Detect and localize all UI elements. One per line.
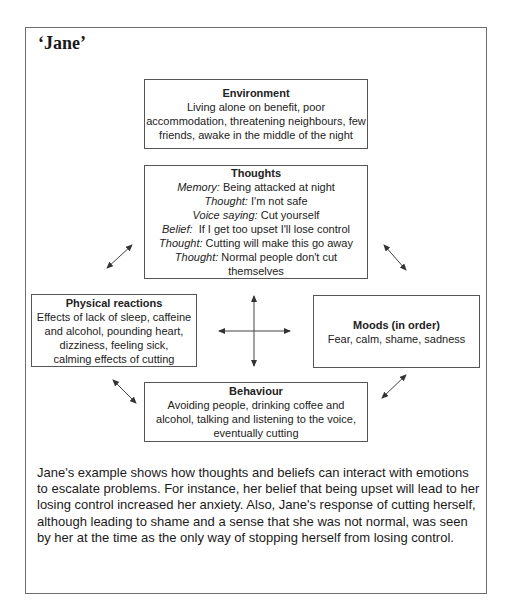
environment-heading: Environment xyxy=(145,86,367,100)
physical-line: calming effects of cutting xyxy=(32,352,196,366)
moods-box: Moods (in order) Fear, calm, shame, sadn… xyxy=(313,295,480,368)
thought-item-text: Normal people don't cut xyxy=(218,251,337,263)
thoughts-heading: Thoughts xyxy=(145,166,367,180)
thought-item: Memory: Being attacked at night xyxy=(145,180,367,194)
behaviour-heading: Behaviour xyxy=(145,384,367,398)
thought-item-text: If I get too upset I'll lose control xyxy=(193,223,350,235)
thought-item: Belief: If I get too upset I'll lose con… xyxy=(145,222,367,236)
thought-item-text: Being attacked at night xyxy=(220,181,335,193)
thought-item-text: Cut yourself xyxy=(258,209,320,221)
physical-line: dizziness, feeling sick, xyxy=(32,338,196,352)
thought-item-text: I'm not safe xyxy=(248,195,308,207)
thought-item: themselves xyxy=(145,264,367,278)
thought-item: Thought: Normal people don't cut xyxy=(145,250,367,264)
physical-heading: Physical reactions xyxy=(32,296,196,310)
case-title: ‘Jane’ xyxy=(38,33,86,54)
behaviour-box: Behaviour Avoiding people, drinking coff… xyxy=(144,382,368,442)
environment-box: Environment Living alone on benefit, poo… xyxy=(144,79,368,149)
thought-item-label: Thought: xyxy=(205,195,248,207)
thought-item-label: Memory: xyxy=(177,181,220,193)
thought-item: Thought: Cutting will make this go away xyxy=(145,236,367,250)
thought-item-label: Thought: xyxy=(175,251,218,263)
thought-item-label: Thought: xyxy=(159,237,202,249)
physical-line: Effects of lack of sleep, caffeine xyxy=(32,310,196,324)
moods-heading: Moods (in order) xyxy=(314,318,479,332)
moods-line: Fear, calm, shame, sadness xyxy=(314,332,479,346)
thought-item: Voice saying: Cut yourself xyxy=(145,208,367,222)
behaviour-line: eventually cutting xyxy=(145,426,367,440)
thoughts-box: Thoughts Memory: Being attacked at night… xyxy=(144,165,368,279)
environment-line: Living alone on benefit, poor xyxy=(145,100,367,114)
explanation-paragraph: Jane's example shows how thoughts and be… xyxy=(37,465,482,546)
thought-item-text: Cutting will make this go away xyxy=(203,237,353,249)
thought-item-label: Voice saying: xyxy=(193,209,258,221)
physical-reactions-box: Physical reactions Effects of lack of sl… xyxy=(31,294,197,367)
environment-line: friends, awake in the middle of the nigh… xyxy=(145,128,367,142)
thought-item-text: themselves xyxy=(228,265,284,277)
behaviour-line: Avoiding people, drinking coffee and xyxy=(145,398,367,412)
thought-item: Thought: I'm not safe xyxy=(145,194,367,208)
thought-item-label: Belief: xyxy=(162,223,193,235)
environment-line: accommodation, threatening neighbours, f… xyxy=(145,114,367,128)
behaviour-line: alcohol, talking and listening to the vo… xyxy=(145,412,367,426)
physical-line: and alcohol, pounding heart, xyxy=(32,324,196,338)
